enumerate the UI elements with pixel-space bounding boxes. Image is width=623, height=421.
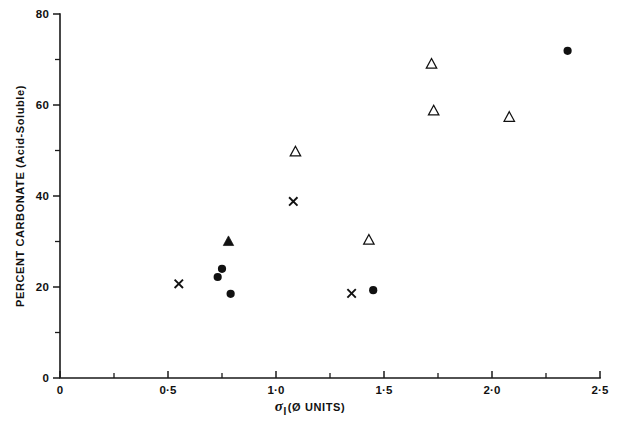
data-point-filled-circle — [214, 273, 222, 281]
scatter-plot: 02040608000·51·01·52·02·5 PERCENT CARBON… — [0, 0, 623, 421]
y-tick-label: 80 — [36, 8, 49, 20]
data-point-open-triangle — [504, 112, 514, 122]
data-point-filled-circle — [369, 286, 377, 294]
data-point-filled-triangle — [223, 236, 233, 246]
x-axis-units: (Ø UNITS) — [288, 401, 345, 413]
x-tick-label: 2·5 — [591, 384, 609, 396]
axis-lines — [60, 14, 600, 378]
data-point-cross — [289, 197, 297, 205]
x-tick-label: 1·5 — [375, 384, 393, 396]
x-axis-title: σI(Ø UNITS) — [275, 398, 345, 417]
chart-figure: 02040608000·51·01·52·02·5 PERCENT CARBON… — [0, 0, 623, 421]
data-point-open-triangle — [426, 58, 436, 68]
x-axis-title-text: σI(Ø UNITS) — [275, 398, 345, 417]
y-tick-label: 0 — [42, 372, 49, 384]
data-point-cross — [175, 280, 183, 288]
data-point-filled-circle — [218, 265, 226, 273]
y-axis-title: PERCENT CARBONATE (Acid-Soluble) — [14, 85, 26, 307]
axes — [60, 14, 600, 378]
y-tick-label: 40 — [36, 190, 49, 202]
x-tick-label: 0·5 — [159, 384, 177, 396]
x-tick-label: 2·0 — [483, 384, 500, 396]
data-point-cross — [347, 289, 355, 297]
sigma-subscript: I — [283, 406, 286, 417]
sigma-glyph: σ — [275, 398, 284, 414]
axis-tick-labels: 02040608000·51·01·52·02·5 — [36, 8, 609, 396]
data-point-filled-circle — [564, 47, 572, 55]
y-tick-label: 60 — [36, 99, 49, 111]
data-point-open-triangle — [290, 146, 300, 156]
data-point-open-triangle — [428, 105, 438, 115]
y-axis-title-text: PERCENT CARBONATE (Acid-Soluble) — [14, 85, 26, 307]
data-point-filled-circle — [227, 290, 235, 298]
y-tick-label: 20 — [36, 281, 49, 293]
data-markers — [175, 47, 572, 298]
axis-ticks — [53, 14, 600, 378]
x-tick-label: 0 — [57, 384, 64, 396]
x-tick-label: 1·0 — [267, 384, 284, 396]
data-point-open-triangle — [364, 235, 374, 245]
